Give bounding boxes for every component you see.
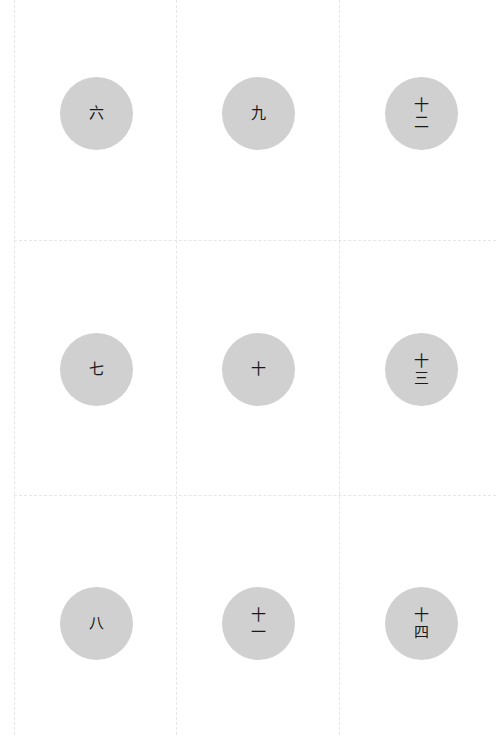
number-disc-10[interactable]: 十 — [222, 333, 295, 406]
number-disc-9[interactable]: 九 — [222, 77, 295, 150]
number-disc-12[interactable]: 十 二 — [385, 77, 458, 150]
number-disc-8[interactable]: 八 — [60, 587, 133, 660]
disc-glyph: 八 — [89, 615, 104, 632]
disc-glyph-bottom: 一 — [251, 624, 266, 641]
number-disc-11[interactable]: 十 一 — [222, 587, 295, 660]
disc-glyph: 九 — [251, 105, 266, 122]
disc-glyph-bottom: 二 — [414, 114, 429, 131]
number-disc-6[interactable]: 六 — [60, 77, 133, 150]
grid-cell-r1c1: 六 — [96, 113, 97, 114]
grid-cell-r2c2: 十 — [258, 369, 259, 370]
grid-line-vertical-2 — [176, 0, 177, 735]
disc-glyph-bottom: 三 — [414, 370, 429, 387]
disc-glyph-top: 十 — [414, 97, 429, 114]
grid-line-horizontal-2 — [14, 495, 496, 496]
disc-glyph: 六 — [89, 105, 104, 122]
number-disc-7[interactable]: 七 — [60, 333, 133, 406]
grid-cell-r1c3: 十 二 — [421, 113, 422, 114]
grid-line-vertical-1 — [14, 0, 15, 735]
number-disc-14[interactable]: 十 四 — [385, 587, 458, 660]
grid-cell-r3c2: 十 一 — [258, 623, 259, 624]
grid-cell-r3c1: 八 — [96, 623, 97, 624]
disc-glyph-top: 十 — [414, 607, 429, 624]
disc-glyph: 七 — [89, 361, 104, 378]
disc-glyph: 十 — [251, 361, 266, 378]
grid-cell-r3c3: 十 四 — [421, 623, 422, 624]
disc-glyph-bottom: 四 — [414, 624, 429, 641]
grid-cell-r2c3: 十 三 — [421, 369, 422, 370]
grid-cell-r1c2: 九 — [258, 113, 259, 114]
disc-glyph-top: 十 — [414, 353, 429, 370]
grid-line-vertical-3 — [339, 0, 340, 735]
grid-cell-r2c1: 七 — [96, 369, 97, 370]
grid-line-horizontal-1 — [14, 240, 496, 241]
disc-glyph-top: 十 — [251, 607, 266, 624]
number-disc-13[interactable]: 十 三 — [385, 333, 458, 406]
